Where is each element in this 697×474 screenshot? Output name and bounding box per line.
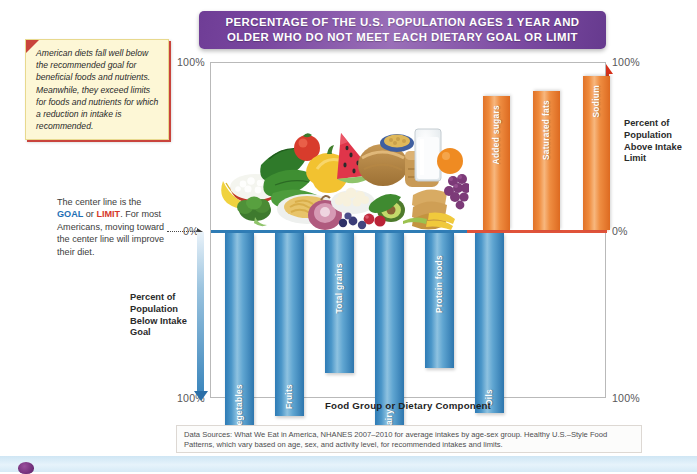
- bar-saturated-fats: Saturated fats: [533, 91, 560, 230]
- bar-label-protein-foods: Protein foods: [435, 255, 444, 313]
- bar-label-sodium: Sodium: [592, 85, 601, 118]
- bar-total-grains: Total grains: [325, 233, 354, 373]
- data-sources-box: Data Sources: What We Eat in America, NH…: [176, 425, 642, 453]
- x-axis-title: Food Group or Dietary Component: [210, 400, 606, 411]
- callout-corner-fold: [26, 40, 39, 53]
- goal-keyword: GOAL: [57, 209, 83, 219]
- right-axis-caption: Percent of Population Above Intake Limit: [624, 118, 694, 165]
- bar-protein-foods: Protein foods: [425, 233, 454, 368]
- bar-fruits: Fruits: [275, 233, 304, 416]
- bullet-marker-icon: [18, 462, 34, 474]
- arrow-tip: [194, 391, 208, 401]
- callout-note: American diets fall well below the recom…: [25, 39, 169, 140]
- bar-label-saturated-fats: Saturated fats: [542, 100, 551, 160]
- callout-note-text: American diets fall well below the recom…: [26, 40, 168, 132]
- bar-added-sugars: Added sugars: [483, 96, 510, 230]
- right-axis-tick-top: 100%: [612, 56, 640, 68]
- data-sources-text: Data Sources: What We Eat in America, NH…: [184, 430, 634, 450]
- right-axis-tick-bottom: 100%: [612, 392, 640, 404]
- chart-plot-area: Vegetables Fruits Total grains Dairy Pro…: [210, 62, 606, 398]
- left-axis-tick-top: 100%: [177, 56, 205, 68]
- right-axis-tick-zero: 0%: [612, 225, 628, 237]
- page-title: PERCENTAGE OF THE U.S. POPULATION AGES 1…: [199, 15, 606, 45]
- bar-label-added-sugars: Added sugars: [492, 105, 501, 164]
- left-axis-caption: Percent of Population Below Intake Goal: [130, 292, 206, 339]
- centerline-lead: The center line is the: [57, 197, 141, 207]
- bar-label-total-grains: Total grains: [335, 263, 344, 313]
- chart-plot-inner: Vegetables Fruits Total grains Dairy Pro…: [211, 63, 605, 397]
- bar-sodium: Sodium: [583, 76, 610, 230]
- assorted-foods-photograph: [217, 103, 469, 230]
- centerline-explainer: The center line is the GOAL or LIMIT. Fo…: [57, 196, 165, 258]
- chart-title-banner: PERCENTAGE OF THE U.S. POPULATION AGES 1…: [199, 11, 606, 49]
- bottom-decorative-strip: [0, 456, 697, 472]
- bar-oils: Oils: [475, 233, 504, 413]
- centerline-conjunction: or: [83, 209, 96, 219]
- limit-keyword: LIMIT: [96, 209, 120, 219]
